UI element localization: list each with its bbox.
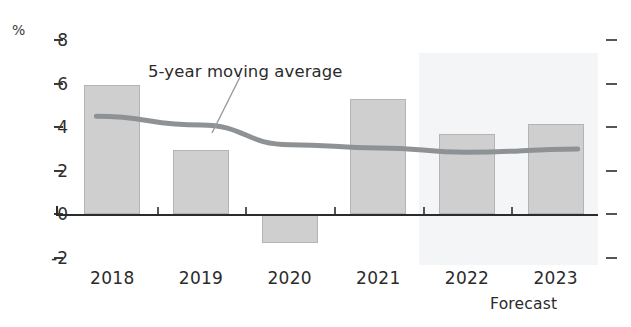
right-axis-tick-mark bbox=[606, 257, 617, 259]
y-axis: 86420-2 bbox=[8, 0, 68, 327]
x-axis-label-2018: 2018 bbox=[90, 268, 134, 288]
right-axis-tick-mark bbox=[606, 83, 617, 85]
leader-path bbox=[212, 77, 240, 133]
y-axis-tick-mark bbox=[54, 257, 63, 259]
x-axis-label-2019: 2019 bbox=[179, 268, 223, 288]
moving-average-annotation-label: 5-year moving average bbox=[148, 62, 343, 81]
right-axis-tick-mark bbox=[606, 39, 617, 41]
chart-figure: % 86420-2 5-year moving average 20182019… bbox=[0, 0, 631, 327]
x-axis-label-2022: 2022 bbox=[445, 268, 489, 288]
y-axis-stub bbox=[56, 206, 58, 215]
x-axis-label-2020: 2020 bbox=[267, 268, 311, 288]
right-axis-tick-mark bbox=[606, 213, 617, 215]
x-axis-label-2021: 2021 bbox=[356, 268, 400, 288]
y-axis-tick-mark bbox=[54, 83, 63, 85]
y-axis-tick-mark bbox=[54, 126, 63, 128]
right-axis-tick-mark bbox=[606, 170, 617, 172]
y-axis-tick-mark bbox=[54, 170, 63, 172]
x-axis-label-2023: 2023 bbox=[533, 268, 577, 288]
right-axis-tick-mark bbox=[606, 126, 617, 128]
y-axis-tick-mark bbox=[54, 39, 63, 41]
forecast-label: Forecast bbox=[490, 295, 557, 313]
